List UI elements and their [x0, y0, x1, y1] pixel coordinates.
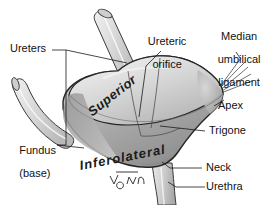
bladder-anatomy-figure: Ureters Ureteric orifice Median umbilica…	[0, 0, 271, 205]
urethra	[152, 163, 176, 205]
label-fundus-base: Fundus (base)	[7, 133, 56, 191]
label-ureteric-orifice: Ureteric orifice	[130, 24, 192, 82]
label-median-umbilical-line3: ligament	[218, 76, 260, 88]
label-ureteric-orifice-line1: Ureteric	[148, 35, 187, 47]
label-neck: Neck	[206, 162, 231, 174]
label-fundus-line2: (base)	[19, 167, 50, 179]
label-ureteric-orifice-line2: orifice	[152, 58, 181, 70]
label-ureters: Ureters	[10, 43, 46, 55]
label-apex: Apex	[218, 100, 243, 112]
artist-signature	[110, 172, 144, 189]
label-median-umbilical-ligament: Median umbilical ligament	[199, 19, 267, 100]
label-median-umbilical-line2: umbilical	[218, 53, 261, 65]
label-fundus-line1: Fundus	[19, 144, 56, 156]
label-median-umbilical-line1: Median	[221, 30, 257, 42]
label-urethra: Urethra	[206, 181, 243, 193]
label-trigone: Trigone	[209, 125, 246, 137]
